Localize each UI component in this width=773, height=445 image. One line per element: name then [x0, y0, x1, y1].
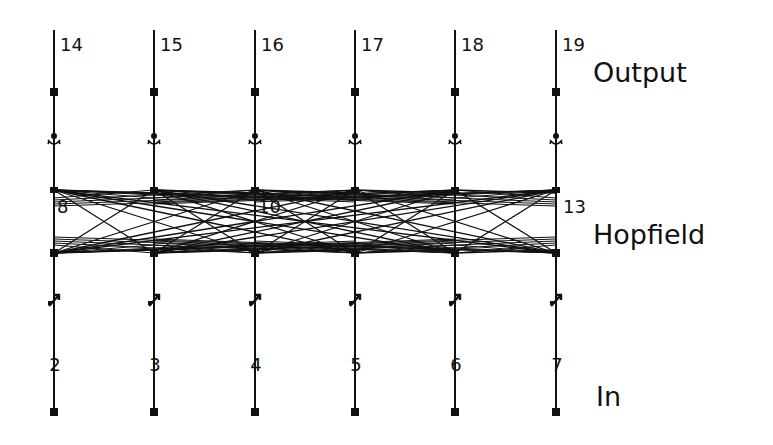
- hopfield-unit-label: 13: [563, 198, 586, 216]
- connection-arrow-icon: [352, 133, 358, 139]
- connection-arrow-icon: [151, 133, 157, 139]
- output-unit-label: 17: [361, 36, 384, 54]
- connection-arrow-icon: [553, 133, 559, 139]
- connection-arrow-icon: [252, 133, 258, 139]
- output-unit-label: 16: [261, 36, 284, 54]
- input-unit-node: [552, 408, 560, 416]
- input-arrow-icon: [449, 301, 453, 305]
- connection-arrow-icon: [452, 133, 458, 139]
- network-diagram: 14 15 16 17 18 19 8 10 13 2 3 4 5 6 7 Ou…: [0, 0, 773, 445]
- input-unit-label: 3: [149, 356, 160, 374]
- hopfield-unit-node: [150, 187, 158, 193]
- connection-arrow-icon: [51, 133, 57, 139]
- hopfield-unit-node: [552, 249, 560, 257]
- output-unit-label: 15: [160, 36, 183, 54]
- input-unit-label: 7: [551, 356, 562, 374]
- input-unit-node: [451, 408, 459, 416]
- hopfield-unit-node: [451, 249, 459, 257]
- input-unit-label: 6: [450, 356, 461, 374]
- input-arrow-icon: [349, 301, 353, 305]
- input-arrow-icon: [249, 301, 253, 305]
- input-unit-node: [150, 408, 158, 416]
- input-unit-node: [251, 408, 259, 416]
- output-unit-node: [251, 88, 259, 96]
- hopfield-unit-node: [251, 187, 259, 193]
- output-unit-node: [451, 88, 459, 96]
- hopfield-unit-node: [150, 249, 158, 257]
- hopfield-unit-node: [552, 187, 560, 193]
- output-unit-label: 19: [562, 36, 585, 54]
- hopfield-layer-label: Hopfield: [593, 221, 705, 249]
- hopfield-unit-label: 10: [258, 198, 281, 216]
- output-unit-label: 14: [60, 36, 83, 54]
- output-unit-label: 18: [461, 36, 484, 54]
- input-unit-node: [50, 408, 58, 416]
- input-layer-label: In: [596, 383, 621, 411]
- hopfield-unit-node: [251, 249, 259, 257]
- hopfield-unit-node: [50, 187, 58, 193]
- output-unit-node: [351, 88, 359, 96]
- input-arrow-icon: [148, 301, 152, 305]
- hopfield-unit-node: [50, 249, 58, 257]
- input-arrow-icon: [48, 301, 52, 305]
- hopfield-unit-node: [351, 249, 359, 257]
- input-unit-node: [351, 408, 359, 416]
- hopfield-unit-node: [451, 187, 459, 193]
- output-unit-node: [552, 88, 560, 96]
- output-layer-label: Output: [593, 59, 687, 87]
- hopfield-unit-node: [351, 187, 359, 193]
- input-unit-label: 2: [49, 356, 60, 374]
- input-unit-label: 4: [250, 356, 261, 374]
- output-unit-node: [150, 88, 158, 96]
- output-unit-node: [50, 88, 58, 96]
- hopfield-unit-label: 8: [57, 198, 68, 216]
- input-unit-label: 5: [350, 356, 361, 374]
- input-arrow-icon: [550, 301, 554, 305]
